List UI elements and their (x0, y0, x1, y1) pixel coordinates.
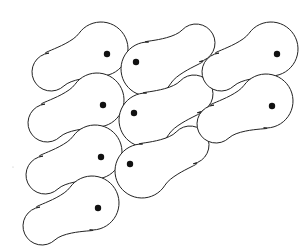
nucleus-dot (127, 161, 133, 167)
nucleus-dot (131, 110, 137, 116)
nucleus-dot (98, 154, 104, 160)
cell-diagram-canvas (0, 0, 308, 251)
specks-group (12, 166, 13, 167)
nucleus-dot (269, 103, 275, 109)
nucleus-dot (104, 51, 110, 57)
speck (12, 166, 13, 167)
nucleus-dot (100, 102, 106, 108)
nucleus-dot (133, 59, 139, 65)
cell-diagram (0, 0, 308, 251)
nucleus-dot (95, 205, 101, 211)
cells-group (23, 22, 298, 245)
nucleus-dot (274, 51, 280, 57)
